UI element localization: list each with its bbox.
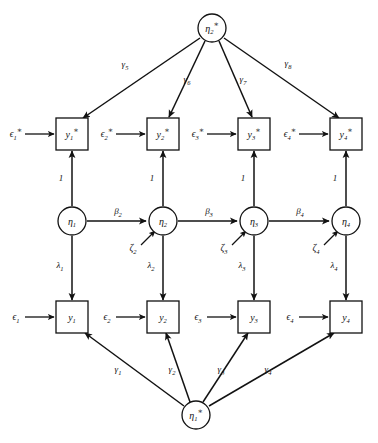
zeta3-label: ζ3 [220,243,228,254]
node-y3: y3 [238,301,270,333]
beta2-label: β2 [113,206,122,217]
node-eta1: η1 [58,207,86,235]
lambda2-label: λ2 [146,260,155,271]
eps2-label: ϵ2 [103,312,111,323]
gamma1-label: γ1 [115,364,122,375]
edges-eta-to-ystar [72,151,346,206]
eps4-label: ϵ4 [286,312,294,323]
beta3-label: β3 [204,206,213,217]
path-diagram-canvas: η2∗ y1∗ y2∗ y3∗ y4∗ [0,0,378,443]
zeta2-label: ζ2 [129,243,137,254]
beta4-label: β4 [295,206,304,217]
node-eta3: η3 [240,207,268,235]
edge-labels-gamma-top: γ5 γ6 γ7 γ8 [122,58,293,85]
path-diagram-svg: η2∗ y1∗ y2∗ y3∗ y4∗ [0,0,378,443]
edges-top-latent-to-indicators [83,38,339,118]
node-y2: y2 [147,301,179,333]
edge-eta2star-to-y1star [83,38,200,118]
gamma8-label: γ8 [285,58,293,69]
eps4star-label: ϵ4∗ [284,125,297,140]
lambda4-label: λ4 [329,260,338,271]
edge-labels-unit-loadings: 1 1 1 1 [59,173,338,183]
unit-loading-3-label: 1 [241,173,246,183]
edges-eta-to-y [72,236,346,300]
gamma5-label: γ5 [122,59,130,70]
edge-eta1star-to-y3 [203,333,248,402]
node-y4: y4 [330,301,362,333]
node-eta4: η4 [332,207,360,235]
node-eta2: η2 [149,207,177,235]
edge-labels-beta: β2 β3 β4 [113,206,304,217]
node-y1star: y1∗ [56,118,88,150]
unit-loading-4-label: 1 [333,173,338,183]
node-eta1star: η1∗ [182,401,210,429]
eps3star-label: ϵ3∗ [192,125,205,140]
edge-eta2star-to-y3star [219,41,252,117]
gamma4-label: γ4 [265,364,273,375]
node-y1: y1 [56,301,88,333]
edge-labels-lambda: λ1 λ2 λ3 λ4 [55,260,338,271]
residual-disturbances: ζ2 ζ3 ζ4 [129,243,320,254]
edge-eta1star-to-y4 [209,333,334,406]
unit-loading-1-label: 1 [59,173,64,183]
node-eta2star: η2∗ [198,14,226,42]
eps1star-label: ϵ1∗ [10,125,23,140]
node-y3star: y3∗ [238,118,270,150]
node-y4star: y4∗ [330,118,362,150]
gamma2-label: γ2 [169,364,177,375]
zeta4-label: ζ4 [312,243,320,254]
node-y2star: y2∗ [147,118,179,150]
edge-zeta3-to-eta3 [232,231,246,245]
edge-labels-gamma-bottom: γ1 γ2 γ3 γ4 [115,364,273,375]
eps3-label: ϵ3 [194,312,202,323]
eps2star-label: ϵ2∗ [101,125,114,140]
unit-loading-2-label: 1 [150,173,155,183]
lambda3-label: λ3 [237,260,246,271]
eps1-label: ϵ1 [12,312,19,323]
lambda1-label: λ1 [55,260,63,271]
gamma7-label: γ7 [240,74,248,85]
gamma6-label: γ6 [184,74,192,85]
edges-bottom-latent-to-indicators [85,333,334,406]
edge-zeta4-to-eta4 [324,231,338,245]
gamma3-label: γ3 [218,364,226,375]
edge-zeta2-to-eta2 [141,231,155,245]
